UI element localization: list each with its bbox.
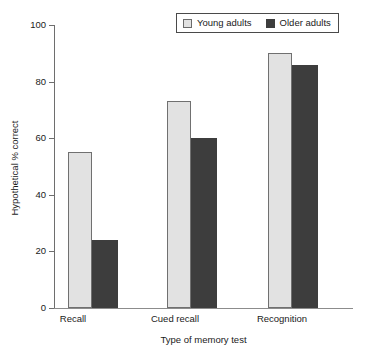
bar-cued-recall-young-adults [167, 101, 191, 308]
y-tick-mark-40 [49, 195, 54, 196]
y-tick-label-0: 0 [41, 303, 46, 313]
x-axis-title: Type of memory test [54, 334, 353, 345]
bar-group-recall [68, 25, 130, 308]
y-tick-mark-20 [49, 251, 54, 252]
bar-recognition-older-adults [292, 65, 318, 308]
y-tick-label-40: 40 [35, 190, 46, 200]
bar-recognition-young-adults [268, 53, 292, 308]
y-tick-label-80: 80 [35, 77, 46, 87]
bar-group-recognition [268, 25, 330, 308]
bar-recall-young-adults [68, 152, 92, 308]
y-tick-label-100: 100 [30, 20, 46, 30]
x-category-label-recognition: Recognition [240, 313, 324, 324]
y-axis-title: Hypothetical % correct [9, 120, 20, 215]
x-category-label-cued-recall: Cued recall [137, 313, 213, 324]
y-tick-mark-60 [49, 138, 54, 139]
bar-recall-older-adults [92, 240, 118, 308]
y-tick-label-20: 20 [35, 247, 46, 257]
y-tick-label-60: 60 [35, 133, 46, 143]
x-axis-line [54, 308, 353, 309]
x-category-label-recall: Recall [43, 313, 103, 324]
bar-chart: Young adults Older adults 100 80 60 40 2… [0, 0, 367, 354]
plot-area [55, 25, 353, 308]
y-tick-mark-100 [49, 25, 54, 26]
y-tick-mark-80 [49, 82, 54, 83]
bar-cued-recall-older-adults [191, 138, 217, 308]
bar-group-cued-recall [167, 25, 229, 308]
